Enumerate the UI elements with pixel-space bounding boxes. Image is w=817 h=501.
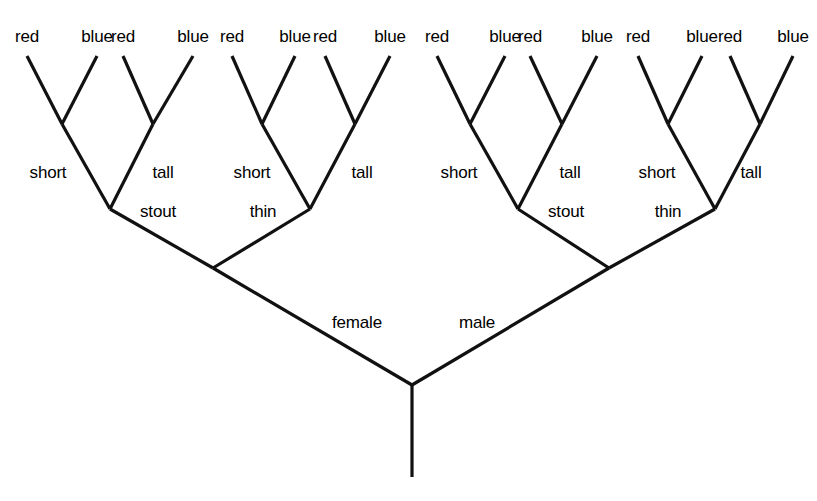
decision-tree-diagram: red blue red blue red blue red blue red … bbox=[0, 0, 817, 501]
leaf-label-3: red bbox=[111, 28, 135, 45]
level3-label-1: short bbox=[30, 164, 67, 181]
leaf-edge-1 bbox=[27, 56, 62, 124]
level3-label-6: tall bbox=[560, 164, 581, 181]
edges-group bbox=[27, 56, 793, 477]
level2-label-4: thin bbox=[655, 203, 682, 220]
leaf-label-11: red bbox=[518, 28, 542, 45]
leaf-label-14: blue bbox=[686, 28, 717, 45]
level2-label-2: thin bbox=[250, 203, 277, 220]
leaf-edge-3 bbox=[123, 56, 153, 124]
leaf-label-8: blue bbox=[374, 28, 405, 45]
leaf-label-2: blue bbox=[81, 28, 112, 45]
leaf-edge-8 bbox=[355, 56, 390, 124]
level3-label-8: tall bbox=[741, 164, 762, 181]
leaf-edge-13 bbox=[638, 56, 668, 124]
leaf-label-1: red bbox=[15, 28, 39, 45]
level1-label-female: female bbox=[332, 314, 382, 331]
level3-label-2: tall bbox=[153, 164, 174, 181]
leaf-edge-15 bbox=[730, 56, 760, 124]
level3-label-7: short bbox=[639, 164, 676, 181]
level2-label-3: stout bbox=[548, 203, 584, 220]
leaf-edge-14 bbox=[668, 56, 702, 124]
level1-edge-male bbox=[412, 268, 609, 385]
leaf-edge-4 bbox=[153, 56, 193, 124]
level3-edge-6 bbox=[518, 124, 562, 209]
level3-label-3: short bbox=[234, 164, 271, 181]
leaf-label-13: red bbox=[626, 28, 650, 45]
leaf-edge-5 bbox=[232, 56, 262, 124]
leaf-edge-11 bbox=[530, 56, 562, 124]
level3-edge-2 bbox=[110, 124, 153, 209]
leaf-label-15: red bbox=[718, 28, 742, 45]
leaf-label-10: blue bbox=[489, 28, 520, 45]
leaf-label-9: red bbox=[425, 28, 449, 45]
leaf-label-16: blue bbox=[777, 28, 808, 45]
level3-label-5: short bbox=[441, 164, 478, 181]
leaf-edge-7 bbox=[325, 56, 355, 124]
leaf-label-12: blue bbox=[581, 28, 612, 45]
level1-label-male: male bbox=[459, 314, 495, 331]
leaf-edge-9 bbox=[437, 56, 470, 124]
level3-edge-1 bbox=[62, 124, 110, 209]
leaf-edge-6 bbox=[262, 56, 295, 124]
leaf-edge-12 bbox=[562, 56, 597, 124]
leaf-label-7: red bbox=[313, 28, 337, 45]
leaf-edge-10 bbox=[470, 56, 505, 124]
level3-edge-4 bbox=[310, 124, 355, 209]
level1-edge-female bbox=[213, 268, 412, 385]
level2-label-1: stout bbox=[140, 203, 176, 220]
tree-edges-svg bbox=[0, 0, 817, 501]
leaf-label-4: blue bbox=[177, 28, 208, 45]
leaf-edge-16 bbox=[760, 56, 793, 124]
leaf-label-5: red bbox=[220, 28, 244, 45]
level3-label-4: tall bbox=[352, 164, 373, 181]
leaf-edge-2 bbox=[62, 56, 97, 124]
leaf-label-6: blue bbox=[279, 28, 310, 45]
